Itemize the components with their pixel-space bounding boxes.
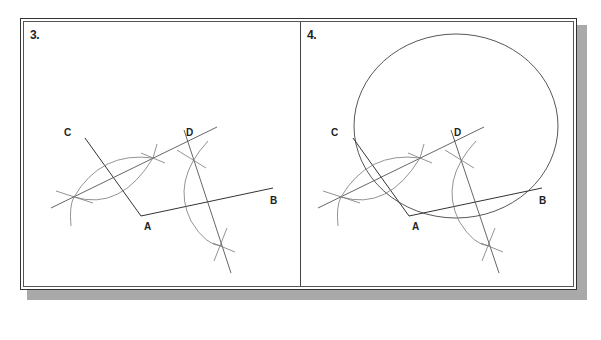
point-label-a: A (412, 221, 419, 232)
panel-step-4: 4. C (300, 22, 573, 286)
figure-frame: 3. C (20, 18, 577, 290)
point-label-d: D (186, 127, 193, 138)
point-label-a: A (144, 221, 151, 232)
point-label-c: C (331, 127, 338, 138)
construction-drawing: C D A B (301, 22, 577, 288)
tick-mark (56, 191, 93, 203)
arc-ac-tail (337, 197, 341, 226)
bisector-ab (184, 130, 231, 273)
bisector-ab (451, 130, 499, 273)
construction-drawing: C D A B (24, 22, 300, 288)
point-label-c: C (64, 127, 71, 138)
point-label-d: D (454, 127, 461, 138)
bisector-ac (318, 127, 484, 208)
arc-ab (184, 141, 222, 246)
segment-ca (85, 138, 141, 216)
circumcircle (354, 34, 558, 218)
arc-ac-tail (70, 197, 74, 226)
tick-mark (323, 191, 360, 203)
panel-step-3: 3. C (24, 22, 300, 286)
point-label-b: B (539, 195, 546, 206)
point-label-b: B (270, 195, 277, 206)
bisector-ac (51, 127, 217, 208)
tick-mark (481, 243, 503, 252)
tick-mark (445, 150, 474, 168)
segment-ab (141, 188, 273, 216)
frame-inner-border: 3. C (23, 21, 574, 287)
